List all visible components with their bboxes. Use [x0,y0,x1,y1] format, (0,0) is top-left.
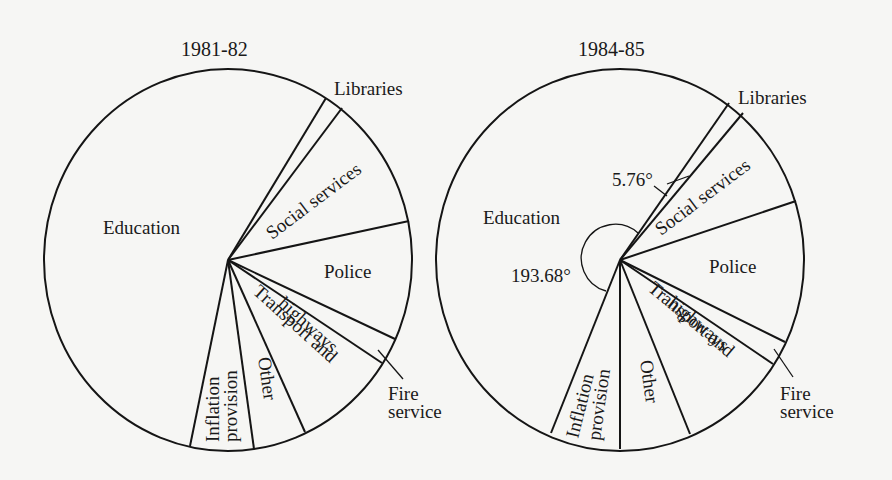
fire-service-leader-right [774,349,793,377]
label-fire-left-2: service [388,401,442,422]
label-libraries-left: Libraries [334,78,403,99]
pie-1981-82: 1981-82 Education Libraries Social servi… [44,38,442,451]
label-fire-right-2: service [780,401,834,422]
angle-leader-5-76 [654,186,667,196]
label-education-left: Education [103,217,181,238]
label-police-left: Police [324,261,372,282]
label-social-services-left: Social services [262,158,365,243]
chart-title-left: 1981-82 [181,38,248,60]
slice-edge-social-police [620,201,796,260]
slice-edge-social-police [228,221,409,260]
label-social-services-right: Social services [651,154,754,239]
label-education-right: Education [483,207,561,228]
chart-title-right: 1984-85 [578,38,645,60]
angle-label-education: 193.68° [511,265,571,286]
pie-1984-85: 1984-85 5.76° 193.68° Education Librarie… [436,38,834,451]
pie-charts: 1981-82 Education Libraries Social servi… [0,0,892,480]
label-other-right: Other [636,359,663,405]
label-other-left: Other [254,356,281,402]
label-police-right: Police [709,256,757,277]
angle-label-libraries: 5.76° [612,169,653,190]
label-libraries-right: Libraries [738,87,807,108]
label-inflation-left-2: provision [220,370,241,442]
label-transport-right-2: highways [664,292,733,355]
